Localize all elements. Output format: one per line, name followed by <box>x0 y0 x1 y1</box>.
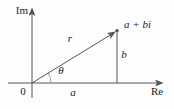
vertical-component-label: b <box>121 48 127 60</box>
radius-vector <box>32 32 115 83</box>
point-label: a + bi <box>124 18 151 30</box>
radius-label: r <box>68 32 73 44</box>
real-axis-label: Re <box>151 85 163 97</box>
point-dot <box>115 29 118 32</box>
angle-arc <box>48 73 51 83</box>
imaginary-axis-label: Im <box>16 4 29 16</box>
horizontal-component-label: a <box>70 86 76 98</box>
angle-label: θ <box>58 64 64 76</box>
origin-label: 0 <box>20 85 26 97</box>
diagram-canvas: Im Re 0 r θ a b a + bi <box>0 0 174 109</box>
complex-plane-diagram: Im Re 0 r θ a b a + bi <box>0 0 174 109</box>
